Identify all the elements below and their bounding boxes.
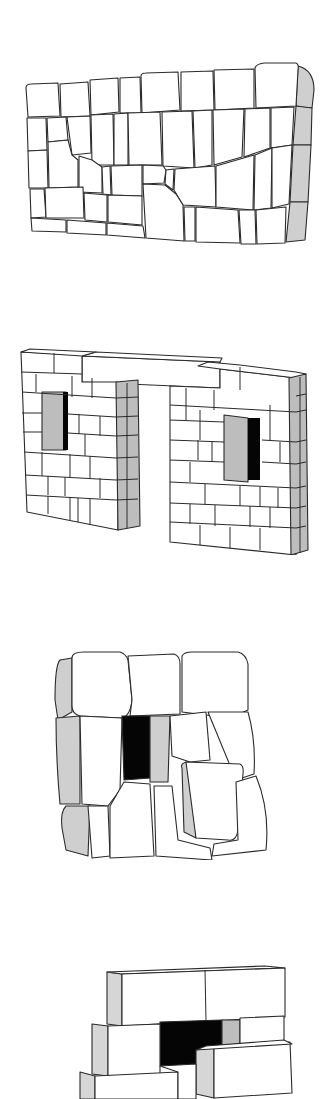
- figure-irregular-stone-wall: [0, 55, 328, 255]
- block-wall-drawing: [0, 345, 328, 555]
- figure-ashlar-block-opening: [0, 960, 328, 1099]
- rounded-blocks-drawing: [0, 650, 328, 860]
- figure-block-wall-with-windows: [0, 345, 328, 555]
- figure-rounded-stone-opening: [0, 650, 328, 860]
- ashlar-blocks-drawing: [0, 960, 328, 1099]
- irregular-wall-drawing: [0, 55, 328, 255]
